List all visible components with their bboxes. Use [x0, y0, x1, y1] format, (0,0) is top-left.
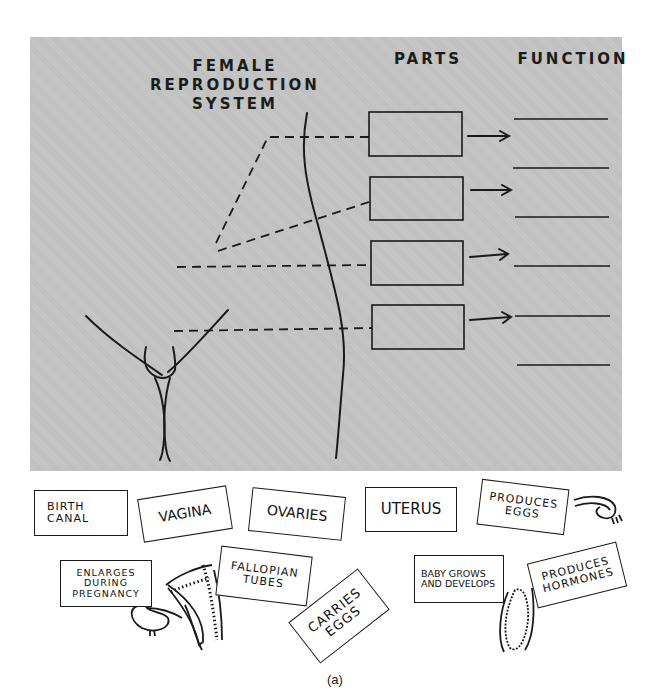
part-box-2 — [370, 177, 463, 220]
arrow-1 — [468, 131, 509, 141]
part-box-1 — [369, 112, 462, 156]
card-label: Enlarges During Pregnancy — [61, 568, 151, 599]
leader-line-2 — [218, 202, 369, 251]
card-label: Uterus — [381, 501, 442, 518]
arrow-3 — [470, 249, 508, 260]
leg-left-outline — [86, 316, 162, 375]
ovary-drawing-1 — [574, 497, 622, 524]
arrow-2 — [471, 185, 511, 195]
card-label: Ovaries — [266, 503, 328, 525]
arrow-4 — [470, 312, 511, 323]
card-label: Produces Eggs — [479, 490, 567, 524]
card-baby-grows-and-develops[interactable]: Baby Grows and Develops — [414, 555, 504, 603]
card-label: Vagina — [158, 502, 213, 525]
leader-line-3 — [177, 265, 369, 267]
card-uterus[interactable]: Uterus — [365, 487, 457, 532]
ovary-drawing-2 — [500, 588, 533, 652]
part-box-3 — [371, 241, 463, 285]
leg-right-outline — [168, 310, 228, 372]
card-enlarges-during-pregnancy[interactable]: Enlarges During Pregnancy — [60, 560, 152, 607]
figure-caption: (a) — [327, 672, 343, 687]
part-box-4 — [372, 305, 464, 349]
card-label: Birth Canal — [47, 501, 127, 525]
body-outline-curve — [304, 113, 344, 458]
card-label: Baby Grows and Develops — [421, 569, 503, 590]
card-label: Fallopian Tubes — [218, 559, 310, 594]
card-birth-canal[interactable]: Birth Canal — [34, 490, 128, 536]
